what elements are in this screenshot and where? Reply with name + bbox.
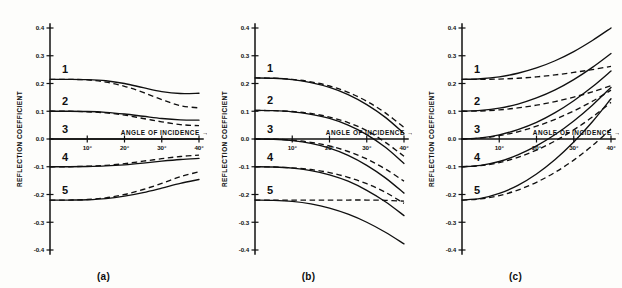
curve-label-1: 1 — [267, 62, 273, 74]
y-tick-label: 0.4 — [241, 24, 250, 31]
panel-caption: (c) — [412, 271, 619, 282]
x-tick-label: 10° — [83, 144, 93, 151]
y-tick-label: -0.4 — [34, 246, 45, 253]
curve-label-5: 5 — [474, 184, 480, 196]
curve-label-5: 5 — [62, 184, 68, 196]
curve-label-2: 2 — [267, 94, 273, 106]
y-tick-label: 0.1 — [241, 108, 250, 115]
x-tick-label: 30° — [362, 144, 372, 151]
y-tick-label: 0.0 — [448, 135, 457, 142]
y-tick-label: -0.3 — [446, 219, 457, 226]
curve-label-3: 3 — [267, 123, 273, 135]
x-tick-label: 40° — [399, 144, 409, 151]
y-axis-label: REFLECTION COEFFICIENT — [428, 91, 435, 187]
curve-label-1: 1 — [62, 63, 68, 75]
curve-label-3: 3 — [62, 123, 68, 135]
curve-label-4: 4 — [267, 151, 274, 163]
curve-5-solid — [50, 180, 199, 201]
y-tick-label: -0.4 — [446, 246, 457, 253]
curve-label-2: 2 — [474, 95, 480, 107]
x-tick-label: 10° — [288, 144, 298, 151]
curve-label-3: 3 — [474, 123, 480, 135]
y-tick-label: -0.1 — [34, 163, 45, 170]
y-tick-label: -0.1 — [239, 163, 250, 170]
y-tick-label: 0.2 — [241, 80, 250, 87]
panel-caption: (b) — [205, 271, 412, 282]
y-tick-label: -0.1 — [446, 163, 457, 170]
y-tick-label: -0.3 — [239, 219, 250, 226]
x-tick-label: 40° — [606, 144, 616, 151]
y-tick-label: 0.3 — [448, 52, 457, 59]
chart-panel-b: REFLECTION COEFFICIENT0.40.30.20.10.0-0.… — [205, 0, 412, 288]
y-tick-label: 0.2 — [448, 80, 457, 87]
curve-2-solid — [462, 54, 611, 112]
curve-label-2: 2 — [62, 95, 68, 107]
y-tick-label: 0.3 — [36, 52, 45, 59]
chart-panel-a: REFLECTION COEFFICIENT0.40.30.20.10.0-0.… — [0, 0, 207, 288]
y-tick-label: -0.3 — [34, 219, 45, 226]
y-tick-label: 0.2 — [36, 80, 45, 87]
y-axis-label: REFLECTION COEFFICIENT — [221, 91, 228, 187]
panel-caption: (a) — [0, 271, 207, 282]
y-tick-label: -0.2 — [239, 191, 250, 198]
x-tick-label: 20° — [120, 144, 130, 151]
curve-label-4: 4 — [62, 151, 69, 163]
curve-1-solid — [462, 28, 611, 79]
y-tick-label: 0.0 — [36, 135, 45, 142]
curve-label-5: 5 — [267, 184, 273, 196]
chart-panel-c: REFLECTION COEFFICIENT0.40.30.20.10.0-0.… — [412, 0, 619, 288]
y-tick-label: -0.4 — [239, 246, 250, 253]
x-tick-label: 10° — [495, 144, 505, 151]
y-tick-label: 0.1 — [448, 108, 457, 115]
curve-4-dashed — [255, 167, 404, 204]
y-tick-label: 0.3 — [241, 52, 250, 59]
figure-reflection-coefficient: REFLECTION COEFFICIENT0.40.30.20.10.0-0.… — [0, 0, 622, 288]
y-tick-label: 0.1 — [36, 108, 45, 115]
curve-4-solid — [50, 158, 199, 166]
x-tick-label: 40° — [194, 144, 204, 151]
curve-1-dashed — [255, 78, 404, 127]
x-axis-label: ANGLE OF INCIDENCE → — [533, 129, 619, 136]
curve-5-solid — [255, 200, 404, 244]
curve-label-1: 1 — [474, 63, 480, 75]
curve-label-4: 4 — [474, 151, 481, 163]
y-tick-label: 0.0 — [241, 135, 250, 142]
x-axis-label: ANGLE OF INCIDENCE → — [121, 129, 207, 136]
x-tick-label: 30° — [157, 144, 167, 151]
y-tick-label: 0.4 — [448, 24, 457, 31]
y-tick-label: 0.4 — [36, 24, 45, 31]
y-axis-label: REFLECTION COEFFICIENT — [16, 91, 23, 187]
x-axis-label: ANGLE OF INCIDENCE → — [326, 129, 412, 136]
y-tick-label: -0.2 — [446, 191, 457, 198]
y-tick-label: -0.2 — [34, 191, 45, 198]
